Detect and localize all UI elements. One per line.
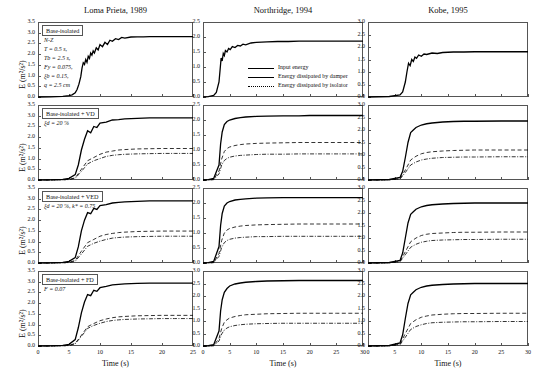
y-tick-label: 0.0: [18, 342, 35, 348]
y-tick-label: 2.5: [18, 205, 35, 211]
panel-curves-r3-c2: [368, 271, 528, 346]
x-tick-label: 10: [92, 349, 108, 355]
y-tick-label: 1.0: [348, 317, 365, 323]
y-tick-label: 0.0: [18, 93, 35, 99]
x-tick-label: 30: [520, 349, 536, 355]
series-dashed: [203, 224, 363, 263]
series-solid: [38, 201, 193, 263]
y-tick-label: 1.0: [183, 229, 200, 235]
y-tick-label: 0.0: [348, 259, 365, 265]
legend-label: Energy dissipated by isolator: [278, 82, 348, 88]
x-tick-label: 5: [387, 349, 403, 355]
x-tick-label: 15: [275, 349, 291, 355]
y-tick-label: 0.5: [348, 247, 365, 253]
y-axis-label-3: E (m²/s²): [18, 309, 27, 338]
column-title-2: Kobe, 1995: [368, 5, 528, 15]
row-label-box-1: Base-isolated + VD: [42, 108, 99, 119]
x-tick-label: 5: [222, 349, 238, 355]
series-dashed: [203, 313, 363, 346]
x-tick-label: 20: [467, 349, 483, 355]
y-tick-label: 0.0: [183, 176, 200, 182]
panel-curves-r2-c1: [203, 188, 363, 263]
y-tick-label: 0.5: [183, 244, 200, 250]
series-solid: [38, 118, 193, 180]
row-param-3-0: F = 0.07: [44, 286, 65, 292]
y-tick-label: 2.5: [183, 101, 200, 107]
y-tick-label: 1.0: [183, 317, 200, 323]
y-tick-label: 1.5: [183, 214, 200, 220]
x-tickmark: [528, 177, 529, 180]
y-tick-label: 3.5: [18, 267, 35, 273]
row-param-2-0: ξd = 20 %, k* = 0.75: [44, 203, 95, 209]
y-tick-label: 3.0: [348, 184, 365, 190]
series-dashed: [203, 143, 363, 181]
y-tick-label: 0.0: [348, 93, 365, 99]
series-dashdot: [203, 236, 363, 263]
x-tick-label: 0: [30, 349, 46, 355]
y-tick-label: 1.5: [183, 305, 200, 311]
y-tick-label: 1.5: [348, 305, 365, 311]
y-tick-label: 3.0: [18, 29, 35, 35]
series-dashed: [368, 232, 528, 263]
series-dashed: [368, 150, 528, 180]
y-tick-label: 3.0: [348, 267, 365, 273]
series-dashdot: [38, 153, 193, 180]
y-tick-label: 2.5: [18, 288, 35, 294]
x-tick-label: 0: [360, 349, 376, 355]
y-tick-label: 0.0: [18, 176, 35, 182]
series-dashed: [38, 315, 193, 346]
y-tick-label: 1.0: [183, 63, 200, 69]
y-tick-label: 2.0: [183, 292, 200, 298]
y-tick-label: 2.5: [348, 31, 365, 37]
series-dashed: [38, 149, 193, 181]
row-param-0-1: T = 0.5 s,: [44, 46, 67, 52]
x-tick-label: 20: [154, 349, 170, 355]
x-tickmark: [528, 94, 529, 97]
legend-label: Energy dissipated by damper: [278, 73, 348, 79]
y-tick-label: 2.0: [18, 50, 35, 56]
row-label-box-3: Base-isolated + FD: [42, 274, 98, 285]
series-dashdot: [38, 236, 193, 263]
x-axis-label-0: Time (s): [38, 359, 193, 368]
series-dashdot: [368, 322, 528, 347]
y-tick-label: 2.5: [18, 122, 35, 128]
series-dashdot: [368, 157, 528, 180]
y-tick-label: 0.0: [183, 342, 200, 348]
panel-curves-r0-c2: [368, 22, 528, 97]
y-tick-label: 3.0: [18, 112, 35, 118]
y-tick-label: 1.5: [348, 222, 365, 228]
y-axis-label-2: E (m²/s²): [18, 226, 27, 255]
series-solid: [368, 52, 528, 97]
row-param-0-4: ξb = 0.15,: [44, 73, 69, 79]
row-param-0-0: N-Z: [44, 37, 53, 43]
series-dashdot: [203, 323, 363, 346]
series-dashed: [38, 231, 193, 263]
y-tick-label: 3.5: [18, 18, 35, 24]
y-axis-label-0: E (m²/s²): [18, 60, 27, 89]
y-tick-label: 1.0: [348, 68, 365, 74]
legend-swatch-dashed: [248, 77, 274, 78]
figure-canvas: Loma Prieta, 1989Northridge, 1994Kobe, 1…: [0, 0, 541, 379]
row-param-0-5: q = 2.5 cm: [44, 82, 70, 88]
x-axis-label-2: Time (s): [368, 359, 528, 368]
y-tick-label: 0.5: [348, 164, 365, 170]
y-tick-label: 3.5: [18, 101, 35, 107]
panel-curves-r1-c2: [368, 105, 528, 180]
x-tick-label: 5: [61, 349, 77, 355]
y-tick-label: 3.0: [348, 101, 365, 107]
series-solid: [203, 116, 363, 181]
y-tick-label: 1.5: [183, 48, 200, 54]
y-axis-label-1: E (m²/s²): [18, 143, 27, 172]
y-tick-label: 0.0: [348, 176, 365, 182]
panel-curves-r1-c1: [203, 105, 363, 180]
y-tick-label: 2.5: [183, 18, 200, 24]
y-tick-label: 0.5: [183, 78, 200, 84]
y-tick-label: 1.5: [183, 131, 200, 137]
y-tick-label: 2.0: [183, 199, 200, 205]
y-tick-label: 0.0: [348, 342, 365, 348]
row-label-box-2: Base-isolated + VED: [42, 191, 103, 202]
x-tick-label: 25: [328, 349, 344, 355]
x-tickmark: [528, 343, 529, 346]
y-tick-label: 2.0: [18, 299, 35, 305]
y-tick-label: 3.0: [183, 267, 200, 273]
